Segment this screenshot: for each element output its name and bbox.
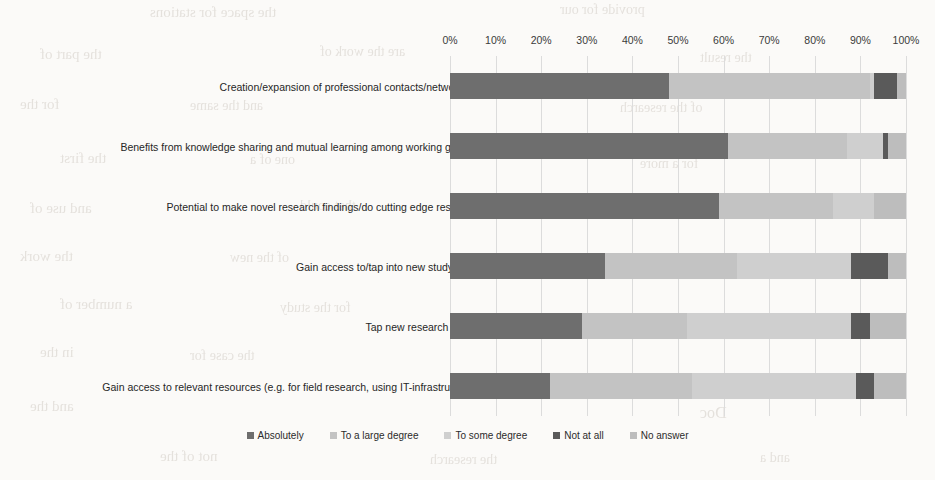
legend-item[interactable]: Not at all — [553, 430, 603, 441]
x-axis-tick-label: 0% — [442, 34, 457, 46]
bar-segment — [874, 73, 897, 99]
legend-swatch-icon — [330, 432, 337, 439]
category-label: Gain access to relevant resources (e.g. … — [37, 381, 477, 393]
legend-label: No answer — [641, 430, 689, 441]
bar-segment — [851, 253, 887, 279]
legend-item[interactable]: No answer — [630, 430, 689, 441]
x-axis-tick-label: 60% — [713, 34, 734, 46]
bar-segment — [605, 253, 737, 279]
bar-segment — [874, 373, 906, 399]
legend-label: To a large degree — [341, 430, 419, 441]
bar-segment — [450, 193, 719, 219]
stacked-bar-chart: 0%10%20%30%40%50%60%70%80%90%100% Absolu… — [0, 0, 935, 480]
x-axis-tick-label: 80% — [804, 34, 825, 46]
bar-segment — [450, 313, 582, 339]
stacked-bar — [450, 133, 906, 159]
legend-item[interactable]: To a large degree — [330, 430, 419, 441]
stacked-bar — [450, 193, 906, 219]
bar-segment — [450, 73, 669, 99]
legend-swatch-icon — [444, 432, 451, 439]
legend-item[interactable]: To some degree — [444, 430, 527, 441]
legend-label: Absolutely — [258, 430, 304, 441]
x-axis-tick-label: 70% — [759, 34, 780, 46]
bar-segment — [450, 373, 550, 399]
bar-segment — [874, 193, 906, 219]
bar-segment — [870, 313, 906, 339]
category-label: Creation/expansion of professional conta… — [37, 81, 477, 93]
bar-segment — [856, 373, 874, 399]
category-label: Benefits from knowledge sharing and mutu… — [37, 141, 477, 153]
category-label: Tap new research funds — [37, 321, 477, 333]
legend-swatch-icon — [247, 432, 254, 439]
bar-segment — [550, 373, 691, 399]
chart-legend: AbsolutelyTo a large degreeTo some degre… — [0, 430, 935, 441]
x-axis-tick-label: 40% — [622, 34, 643, 46]
bar-segment — [450, 133, 728, 159]
x-axis-tick-label: 90% — [850, 34, 871, 46]
category-label: Potential to make novel research finding… — [37, 201, 477, 213]
stacked-bar — [450, 313, 906, 339]
bar-segment — [888, 253, 906, 279]
bar-segment — [888, 133, 906, 159]
bar-segment — [692, 373, 856, 399]
chart-row: Gain access to relevant resources (e.g. … — [0, 356, 935, 416]
x-axis-tick-label: 30% — [576, 34, 597, 46]
chart-row: Potential to make novel research finding… — [0, 176, 935, 236]
x-axis-tick-labels: 0%10%20%30%40%50%60%70%80%90%100% — [0, 34, 935, 50]
bar-segment — [897, 73, 906, 99]
legend-label: Not at all — [564, 430, 603, 441]
stacked-bar — [450, 253, 906, 279]
bar-segment — [728, 133, 847, 159]
legend-swatch-icon — [630, 432, 637, 439]
stacked-bar — [450, 73, 906, 99]
chart-row: Creation/expansion of professional conta… — [0, 56, 935, 116]
x-axis-tick-label: 20% — [531, 34, 552, 46]
bar-segment — [582, 313, 687, 339]
bar-segment — [737, 253, 851, 279]
chart-row: Gain access to/tap into new study area — [0, 236, 935, 296]
stacked-bar — [450, 373, 906, 399]
bar-segment — [687, 313, 851, 339]
bar-segment — [847, 133, 883, 159]
chart-row: Tap new research funds — [0, 296, 935, 356]
legend-item[interactable]: Absolutely — [247, 430, 304, 441]
chart-row: Benefits from knowledge sharing and mutu… — [0, 116, 935, 176]
bar-segment — [669, 73, 870, 99]
bar-segment — [719, 193, 833, 219]
x-axis-tick-label: 100% — [893, 34, 920, 46]
x-axis-tick-label: 50% — [667, 34, 688, 46]
legend-swatch-icon — [553, 432, 560, 439]
bar-segment — [851, 313, 869, 339]
category-label: Gain access to/tap into new study area — [37, 261, 477, 273]
bar-segment — [833, 193, 874, 219]
legend-label: To some degree — [455, 430, 527, 441]
x-axis-tick-label: 10% — [485, 34, 506, 46]
bar-segment — [450, 253, 605, 279]
